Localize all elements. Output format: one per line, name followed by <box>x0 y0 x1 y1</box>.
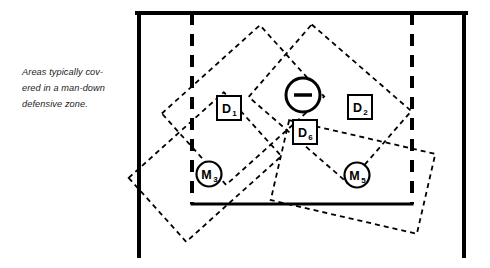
player-box-d1: D1 <box>217 96 241 120</box>
player-box-d2-label: D <box>353 101 362 115</box>
player-box-d1-label: D <box>222 102 231 116</box>
player-box-d2: D2 <box>348 95 372 119</box>
midfielder-markers-group: M3M5 <box>197 162 370 188</box>
coverage-zones-group <box>129 24 436 241</box>
figure-page: Areas typically cov- ered in a man-down … <box>0 0 490 268</box>
player-box-d2-subscript: 2 <box>363 108 368 117</box>
player-box-d1-subscript: 1 <box>232 109 237 118</box>
player-box-d6: D6 <box>293 120 317 144</box>
player-circle-m3-subscript: 3 <box>213 175 218 184</box>
goalie-marker-group <box>286 78 320 112</box>
field-diagram: D1D2D6 M3M5 <box>0 0 490 268</box>
player-circle-m3-label: M <box>201 168 211 182</box>
player-circle-m5-subscript: 5 <box>361 176 366 185</box>
player-circle-m5: M5 <box>345 163 370 188</box>
player-circle-m3: M3 <box>197 162 222 187</box>
zone-upper-right <box>249 24 412 183</box>
player-box-d6-subscript: 6 <box>308 133 313 142</box>
player-box-d6-label: D <box>298 126 307 140</box>
player-circle-m5-label: M <box>349 169 359 183</box>
